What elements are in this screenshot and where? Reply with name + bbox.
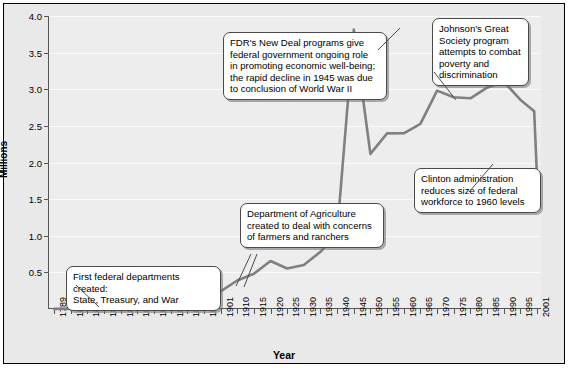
x-tick-label: 1985: [491, 297, 501, 317]
y-tick-label: 4.0: [12, 11, 42, 22]
x-tick-mark: [221, 309, 222, 314]
x-tick-mark: [254, 309, 255, 314]
x-tick-mark: [354, 309, 355, 314]
x-tick-mark: [520, 309, 521, 314]
x-tick-label: 1955: [391, 297, 401, 317]
x-tick-label: 1940: [341, 297, 351, 317]
x-tick-label: 1975: [458, 297, 468, 317]
y-tick-mark: [44, 53, 49, 54]
y-tick-label: 3.5: [12, 47, 42, 58]
callout-line: Clinton administration: [421, 173, 534, 185]
callout-line: to conclusion of World War II: [230, 83, 380, 95]
x-tick-label: 1980: [474, 297, 484, 317]
callout-line: reduces size of federal: [421, 185, 534, 197]
y-tick-mark: [44, 272, 49, 273]
gridline: [49, 126, 541, 127]
callout-new-deal: FDR's New Deal programs give federal gov…: [223, 32, 387, 100]
x-tick-label: 2001: [541, 297, 551, 317]
x-tick-mark: [504, 309, 505, 314]
callout-line: federal government ongoing role: [230, 49, 380, 61]
y-tick-label: 1.5: [12, 194, 42, 205]
gridline: [49, 163, 541, 164]
callout-clinton: Clinton administration reduces size of f…: [414, 168, 541, 213]
x-tick-label: 1915: [258, 297, 268, 317]
y-tick-mark: [44, 199, 49, 200]
callout-line: Society program: [439, 35, 522, 47]
callout-first-departments: First federal departments created: State…: [66, 266, 221, 311]
y-tick-mark: [44, 236, 49, 237]
x-tick-label: 1970: [441, 297, 451, 317]
x-tick-label: 1995: [524, 297, 534, 317]
x-tick-label: 1901: [225, 297, 235, 317]
x-tick-mark: [387, 309, 388, 314]
x-tick-mark: [470, 309, 471, 314]
callout-line: Department of Agriculture: [247, 208, 377, 220]
x-tick-mark: [237, 309, 238, 314]
x-tick-label: 1920: [275, 297, 285, 317]
callout-agriculture: Department of Agriculture created to dea…: [240, 203, 384, 248]
callout-line: created to deal with concerns: [247, 220, 377, 232]
y-tick-label: 0.5: [12, 267, 42, 278]
y-tick-mark: [44, 89, 49, 90]
y-tick-label: 1.0: [12, 230, 42, 241]
x-tick-label: 1945: [358, 297, 368, 317]
y-tick-label: 2.0: [12, 157, 42, 168]
x-tick-mark: [537, 309, 538, 314]
gridline: [49, 16, 541, 17]
x-tick-mark: [271, 309, 272, 314]
x-tick-label: 1910: [241, 297, 251, 317]
x-tick-mark: [420, 309, 421, 314]
x-tick-mark: [320, 309, 321, 314]
y-axis-label: Millions: [0, 141, 9, 178]
callout-line: Johnson's Great: [439, 23, 522, 35]
x-tick-mark: [487, 309, 488, 314]
callout-line: in promoting economic well-being;: [230, 60, 380, 72]
callout-line: State, Treasury, and War: [73, 294, 214, 306]
x-axis-label: Year: [4, 349, 564, 361]
callout-line: workforce to 1960 levels: [421, 196, 534, 208]
chart-figure: 0.51.01.52.02.53.03.54.0 Millions 178918…: [3, 3, 565, 364]
x-tick-label: 1930: [308, 297, 318, 317]
x-tick-mark: [437, 309, 438, 314]
y-tick-mark: [44, 163, 49, 164]
callout-line: FDR's New Deal programs give: [230, 37, 380, 49]
callout-line: attempts to combat: [439, 46, 522, 58]
callout-great-society: Johnson's Great Society program attempts…: [432, 18, 529, 86]
callout-line: of farmers and ranchers: [247, 231, 377, 243]
x-tick-mark: [287, 309, 288, 314]
y-tick-mark: [44, 16, 49, 17]
y-tick-label: 3.0: [12, 84, 42, 95]
x-tick-mark: [304, 309, 305, 314]
x-tick-mark: [337, 309, 338, 314]
x-tick-label: 1990: [508, 297, 518, 317]
x-tick-mark: [454, 309, 455, 314]
y-tick-label: 2.5: [12, 120, 42, 131]
x-tick-label: 1925: [291, 297, 301, 317]
x-tick-mark: [404, 309, 405, 314]
x-tick-label: 1960: [408, 297, 418, 317]
callout-line: First federal departments created:: [73, 271, 214, 294]
x-tick-label: 1935: [324, 297, 334, 317]
x-tick-label: 1950: [374, 297, 384, 317]
x-tick-mark: [54, 309, 55, 314]
callout-line: discrimination: [439, 69, 522, 81]
callout-line: the rapid decline in 1945 was due: [230, 72, 380, 84]
callout-line: poverty and: [439, 58, 522, 70]
y-tick-mark: [44, 126, 49, 127]
x-tick-mark: [370, 309, 371, 314]
x-tick-label: 1965: [424, 297, 434, 317]
